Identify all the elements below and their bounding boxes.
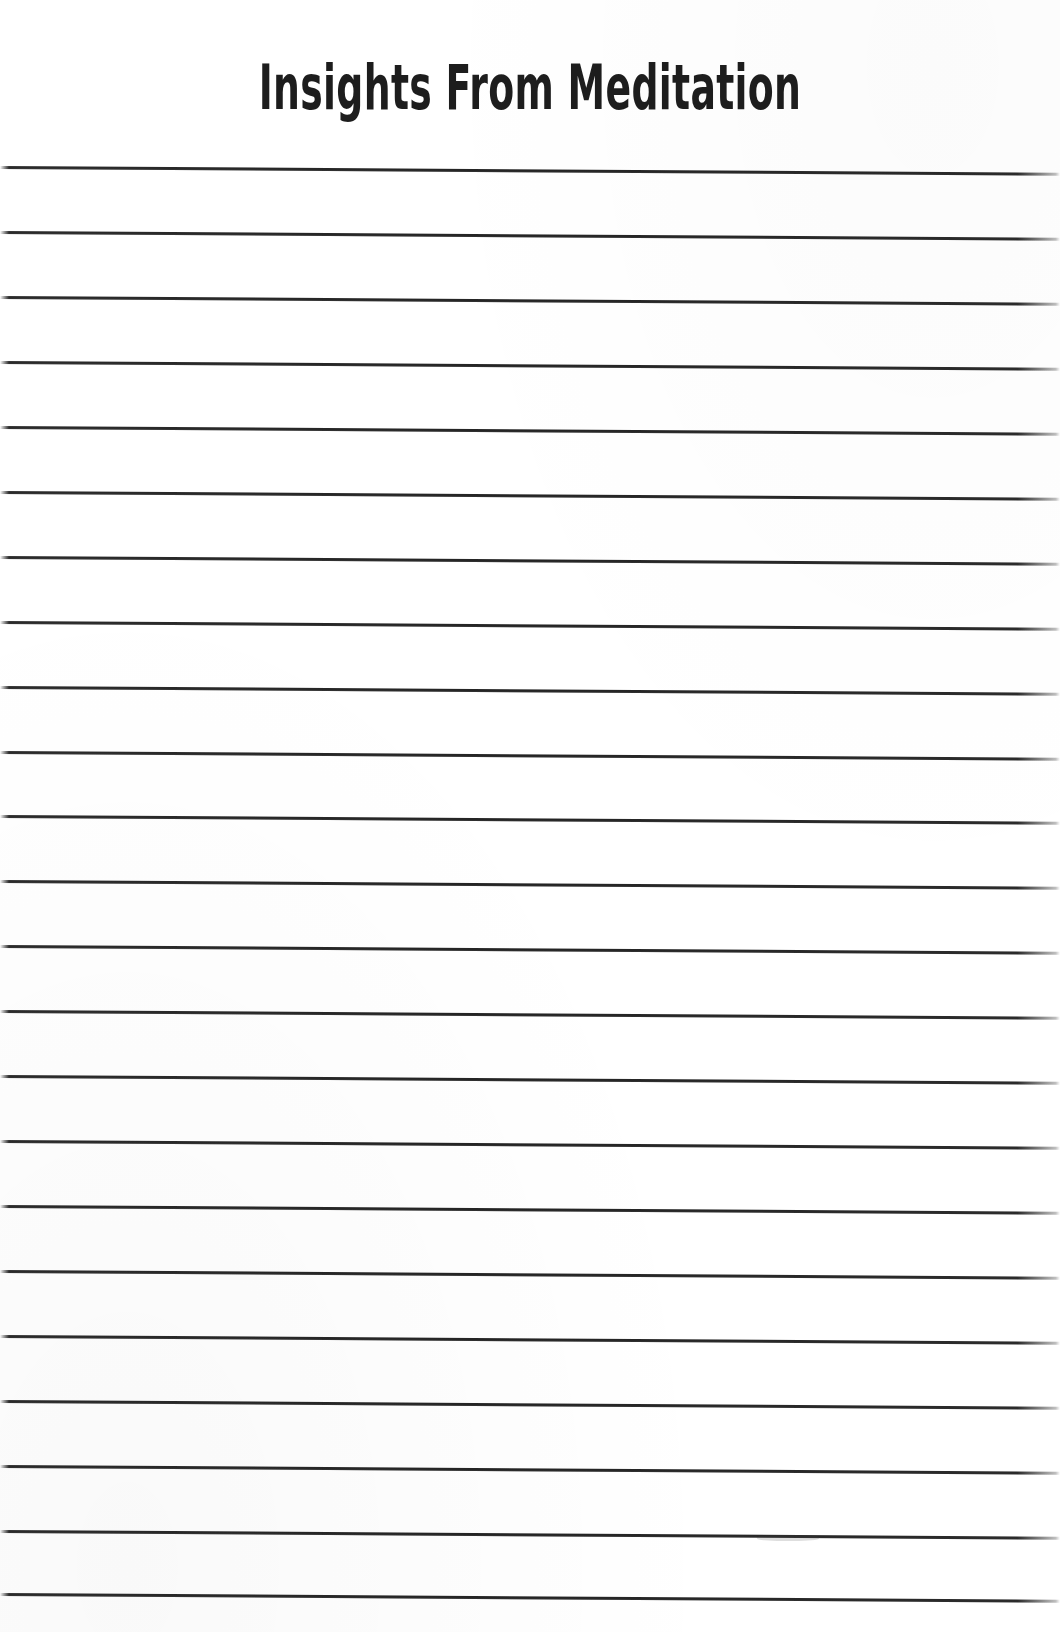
rule-stroke [0,815,1060,825]
writing-line[interactable] [0,1395,1060,1409]
rule-stroke [0,491,1060,501]
writing-line[interactable] [0,421,1060,435]
writing-line[interactable] [0,681,1060,695]
rule-stroke [0,751,1060,761]
writing-line[interactable] [0,356,1060,370]
rule-stroke [0,945,1060,955]
writing-line[interactable] [0,1200,1060,1214]
rule-stroke [0,556,1060,566]
rule-stroke [0,1530,1060,1540]
writing-line[interactable] [0,1330,1060,1344]
rule-stroke [0,1010,1060,1020]
writing-line[interactable] [0,291,1060,305]
rule-stroke [0,231,1060,241]
rule-stroke [0,361,1060,371]
writing-line[interactable] [0,1135,1060,1149]
writing-line[interactable] [0,486,1060,500]
rule-stroke [0,1465,1060,1475]
rule-stroke [0,686,1060,696]
rule-stroke [0,1400,1060,1410]
rule-stroke [0,1205,1060,1215]
rule-stroke [0,1335,1060,1345]
rule-stroke [0,166,1060,176]
rule-stroke [0,1593,1060,1603]
writing-line[interactable] [0,1525,1060,1539]
writing-line[interactable] [0,551,1060,565]
rule-stroke [0,1075,1060,1085]
rule-stroke [0,880,1060,890]
rule-stroke [0,1140,1060,1150]
writing-line[interactable] [0,875,1060,889]
ruled-lines-area [0,0,1060,1632]
writing-line[interactable] [0,1460,1060,1474]
journal-page: Insights From Meditation [0,0,1060,1632]
rule-stroke [0,1270,1060,1280]
rule-stroke [0,621,1060,631]
rule-stroke [0,296,1060,306]
writing-line[interactable] [0,746,1060,760]
rule-stroke [0,426,1060,436]
writing-line[interactable] [0,1005,1060,1019]
writing-line[interactable] [0,226,1060,240]
writing-line[interactable] [0,616,1060,630]
writing-line[interactable] [0,1265,1060,1279]
writing-line[interactable] [0,1070,1060,1084]
writing-line[interactable] [0,810,1060,824]
writing-line[interactable] [0,161,1060,175]
writing-line[interactable] [0,1588,1060,1602]
writing-line[interactable] [0,940,1060,954]
